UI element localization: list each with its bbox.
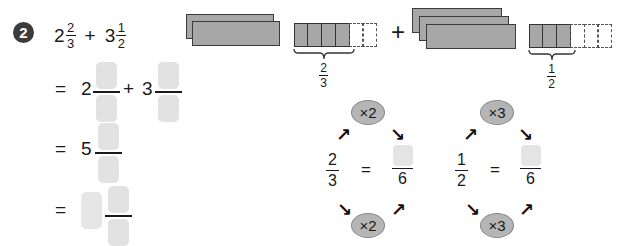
multiplier-label: ×2	[359, 217, 376, 234]
numerator: 2	[67, 21, 74, 34]
arrow-up-right-icon: ↗	[519, 201, 534, 219]
fraction-bar	[520, 168, 541, 169]
arrow-up-right-icon: ↗	[463, 126, 478, 144]
brace-icon	[293, 48, 355, 62]
step1-blank-fraction-1[interactable]	[93, 62, 120, 122]
plus-operator: +	[85, 26, 96, 45]
numerator-blank[interactable]	[108, 186, 129, 213]
fraction-bar	[93, 91, 120, 93]
numerator: 2	[328, 152, 337, 168]
multiplier-label: ×2	[359, 104, 376, 121]
multiplier-label: ×3	[488, 104, 505, 121]
step1-whole2: 3	[142, 79, 153, 98]
fraction-bar	[326, 170, 339, 171]
step1-blank-fraction-2[interactable]	[155, 62, 182, 122]
multiplier-label: ×3	[488, 217, 505, 234]
fraction-bar	[95, 152, 122, 154]
whole-bar	[426, 24, 516, 49]
source-fraction: 1 2	[455, 152, 468, 189]
fraction-bar	[392, 168, 413, 169]
multiplier-oval-bottom: ×3	[480, 213, 514, 238]
arrow-up-right-icon: ↗	[391, 201, 406, 219]
denominator: 2	[548, 78, 555, 90]
empty-cell	[597, 24, 612, 48]
denominator: 3	[328, 173, 337, 189]
arrow-up-right-icon: ↗	[336, 126, 351, 144]
numerator-blank[interactable]	[393, 145, 413, 166]
whole-bar	[192, 21, 280, 46]
fraction-bar	[155, 91, 182, 93]
equals: =	[490, 160, 500, 180]
step3-equals: =	[55, 200, 66, 219]
denominator: 6	[398, 171, 407, 187]
denominator: 2	[118, 37, 125, 50]
multiplier-oval-bottom: ×2	[351, 213, 385, 238]
partial-bar	[295, 23, 377, 47]
step2-equals: =	[55, 139, 66, 158]
step2-blank-fraction[interactable]	[95, 123, 122, 183]
denominator: 2	[457, 173, 466, 189]
empty-cell	[362, 23, 377, 47]
equals: =	[361, 160, 371, 180]
denominator-blank[interactable]	[108, 219, 129, 246]
step3-whole-blank[interactable]	[81, 192, 102, 229]
target-fraction[interactable]: 6	[520, 145, 541, 187]
group1-label-fraction: 2 3	[319, 62, 328, 89]
step3-blank-fraction[interactable]	[105, 186, 132, 246]
target-fraction[interactable]: 6	[392, 145, 413, 187]
term1-whole: 2	[54, 26, 65, 45]
denominator-blank[interactable]	[96, 95, 117, 122]
step2-whole: 5	[81, 139, 92, 158]
source-fraction: 2 3	[326, 152, 339, 189]
problem-number-badge: 2	[13, 22, 34, 43]
term2-whole: 3	[105, 26, 116, 45]
diagram-plus: +	[391, 20, 405, 44]
numerator: 2	[320, 62, 327, 74]
numerator-blank[interactable]	[521, 145, 541, 166]
denominator: 6	[526, 171, 535, 187]
numerator: 1	[457, 152, 466, 168]
problem-number: 2	[19, 24, 27, 41]
problem-expression: 2 2 3 + 3 1 2	[54, 21, 126, 50]
denominator: 3	[320, 77, 327, 89]
step1-equals: =	[55, 79, 66, 98]
arrow-down-right-icon: ↘	[390, 126, 405, 144]
denominator-blank[interactable]	[98, 156, 119, 183]
partial-bar	[530, 24, 612, 48]
multiplier-oval-top: ×3	[480, 100, 514, 125]
step1-plus: +	[123, 79, 134, 98]
term1-fraction: 2 3	[66, 21, 76, 50]
numerator: 1	[548, 63, 555, 75]
numerator-blank[interactable]	[98, 123, 119, 150]
numerator-blank[interactable]	[96, 62, 117, 89]
denominator-blank[interactable]	[158, 95, 179, 122]
arrow-down-right-icon: ↘	[337, 201, 352, 219]
denominator: 3	[67, 37, 74, 50]
step1-whole1: 2	[81, 79, 92, 98]
fraction-bar	[105, 215, 132, 217]
fraction-bar	[455, 170, 468, 171]
arrow-down-right-icon: ↘	[465, 201, 480, 219]
multiplier-oval-top: ×2	[351, 100, 385, 125]
numerator-blank[interactable]	[158, 62, 179, 89]
brace-icon	[528, 49, 576, 63]
numerator: 1	[118, 21, 125, 34]
arrow-down-right-icon: ↘	[518, 126, 533, 144]
group2-label-fraction: 1 2	[547, 63, 556, 90]
term2-fraction: 1 2	[116, 21, 126, 50]
